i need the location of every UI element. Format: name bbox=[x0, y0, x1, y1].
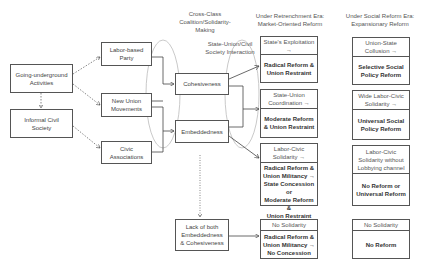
social-reform-outcome-4: No Solidarity No Reform bbox=[352, 219, 410, 259]
outcome-result: No Reform bbox=[353, 231, 409, 258]
retrenchment-outcome-4: No Solidarity Radical Reform & Union Mil… bbox=[260, 219, 318, 259]
header-interaction: State-Union/Civil Society Interaction bbox=[190, 40, 270, 56]
outcome-condition: Wide Labor-Civic Solidarity → bbox=[353, 91, 409, 110]
informal-civil-society-box: Informal Civil Society bbox=[10, 109, 73, 138]
cohesiveness-box: Cohesiveness bbox=[175, 73, 229, 95]
retrenchment-outcome-1: State's Exploitation → Radical Reform & … bbox=[260, 36, 318, 83]
outcome-result: Selective Social Policy Reform bbox=[353, 57, 409, 84]
outcome-result: Universal Social Policy Reform bbox=[353, 110, 409, 139]
header-coalition: Cross-Class Coalition/Solidarity- Making bbox=[150, 10, 260, 34]
outcome-condition: State-Union Coordination → bbox=[261, 90, 317, 109]
outcome-result: Radical Reform & Union Restraint bbox=[261, 55, 317, 82]
interaction-ellipse bbox=[225, 40, 259, 148]
labor-party-box: Labor-based Party bbox=[101, 42, 152, 66]
outcome-result: Moderate Reform & Union Restraint bbox=[261, 109, 317, 137]
outcome-condition: State's Exploitation → bbox=[261, 37, 317, 55]
social-reform-outcome-1: Union-State Collusion → Selective Social… bbox=[352, 37, 410, 85]
outcome-result: Radical Reform & Union Militancy → State… bbox=[261, 163, 317, 221]
retrenchment-outcome-2: State-Union Coordination → Moderate Refo… bbox=[260, 89, 318, 138]
going-underground-box: Going-underground Activities bbox=[10, 64, 73, 93]
social-reform-outcome-3: Labor-Civic Solidarity without Lobbying … bbox=[352, 145, 410, 206]
outcome-condition: No Solidarity bbox=[353, 220, 409, 231]
header-retrenchment: Under Retrenchment Era: Market-Oriented … bbox=[245, 12, 335, 28]
outcome-condition: Labor-Civic Solidarity → bbox=[261, 144, 317, 163]
civic-associations-box: Civic Associations bbox=[101, 141, 152, 164]
outcome-result: Radical Reform & Union Militancy → No Co… bbox=[261, 231, 317, 258]
retrenchment-outcome-3: Labor-Civic Solidarity → Radical Reform … bbox=[260, 143, 318, 206]
header-social-reform: Under Social Reform Era: Expansionary Re… bbox=[335, 12, 421, 28]
outcome-condition: No Solidarity bbox=[261, 220, 317, 231]
social-reform-outcome-2: Wide Labor-Civic Solidarity → Universal … bbox=[352, 90, 410, 140]
new-union-box: New Union Movements bbox=[101, 93, 152, 117]
outcome-condition: Labor-Civic Solidarity without Lobbying … bbox=[353, 146, 409, 174]
outcome-result: No Reform or Universal Reform bbox=[353, 174, 409, 205]
embeddedness-box: Embeddedness bbox=[175, 120, 229, 143]
outcome-condition: Union-State Collusion → bbox=[353, 38, 409, 57]
lack-both-box: Lack of both Embeddedness & Cohesiveness bbox=[175, 219, 229, 251]
